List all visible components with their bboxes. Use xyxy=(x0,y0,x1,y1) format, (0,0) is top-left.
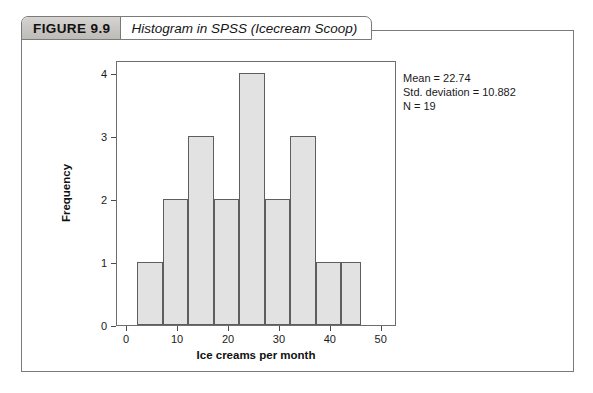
y-axis-label: Frequency xyxy=(60,164,72,222)
histogram-bar xyxy=(265,199,290,325)
histogram-bar xyxy=(137,262,162,325)
x-tick-label: 10 xyxy=(171,333,183,345)
stat-std-deviation: Std. deviation = 10.882 xyxy=(403,85,516,99)
figure-number-label: FIGURE 9.9 xyxy=(22,17,121,39)
y-tick-label: 4 xyxy=(101,68,107,80)
x-tick-label: 30 xyxy=(273,333,285,345)
y-tick-label: 1 xyxy=(101,257,107,269)
figure-box: 01234 01020304050 Frequency Ice creams p… xyxy=(21,30,574,372)
histogram-bar xyxy=(290,136,315,325)
figure-header: FIGURE 9.9 Histogram in SPSS (Icecream S… xyxy=(21,16,372,40)
histogram-bar xyxy=(239,73,264,325)
x-axis-label: Ice creams per month xyxy=(197,349,316,361)
y-tick-mark xyxy=(111,326,116,327)
x-tick-label: 0 xyxy=(123,333,129,345)
stat-mean: Mean = 22.74 xyxy=(403,71,516,85)
statistics-annotation: Mean = 22.74 Std. deviation = 10.882 N =… xyxy=(403,71,516,113)
x-tick-label: 40 xyxy=(324,333,336,345)
histogram-bar xyxy=(214,199,239,325)
plot-area xyxy=(116,61,396,326)
stat-n: N = 19 xyxy=(403,99,516,113)
x-tick-mark xyxy=(279,326,280,331)
x-tick-label: 20 xyxy=(222,333,234,345)
x-tick-mark xyxy=(381,326,382,331)
histogram-bar xyxy=(188,136,213,325)
x-tick-mark xyxy=(330,326,331,331)
x-tick-mark xyxy=(228,326,229,331)
x-tick-mark xyxy=(126,326,127,331)
y-tick-label: 0 xyxy=(101,320,107,332)
x-tick-mark xyxy=(177,326,178,331)
histogram-bar xyxy=(163,199,188,325)
histogram-bar xyxy=(316,262,341,325)
y-tick-label: 2 xyxy=(101,194,107,206)
x-tick-label: 50 xyxy=(375,333,387,345)
figure-title: Histogram in SPSS (Icecream Scoop) xyxy=(121,17,372,39)
y-tick-label: 3 xyxy=(101,131,107,143)
histogram-bar xyxy=(341,262,361,325)
histogram-chart: 01234 01020304050 Frequency Ice creams p… xyxy=(22,31,575,373)
